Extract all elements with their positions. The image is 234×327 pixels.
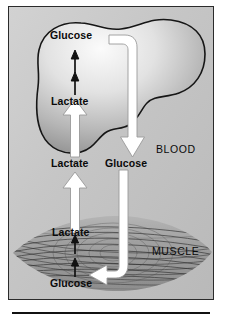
label-muscle-glucose: Glucose	[50, 277, 92, 289]
arrow-glucose-liver-to-blood	[109, 35, 145, 157]
arrow-lactate-muscle-to-blood	[63, 172, 87, 233]
label-blood-glucose: Glucose	[105, 157, 147, 169]
label-muscle-lactate: Lactate	[52, 226, 89, 238]
arrow-lactate-to-liver	[63, 99, 87, 157]
label-liver-glucose: Glucose	[50, 29, 92, 41]
label-blood-lactate: Lactate	[51, 157, 88, 169]
muscle-thin-arrows	[71, 235, 78, 277]
liver-thin-arrows	[71, 50, 79, 95]
label-muscle-region: MUSCLE	[152, 245, 199, 257]
label-blood-region: BLOOD	[156, 143, 196, 155]
arrow-glucose-blood-to-muscle	[89, 170, 128, 285]
figure-canvas: Glucose Lactate Lactate Glucose Lactate …	[0, 0, 234, 327]
label-liver-lactate: Lactate	[51, 95, 88, 107]
diagram-panel: Glucose Lactate Lactate Glucose Lactate …	[8, 6, 214, 300]
figure-rule	[12, 312, 210, 314]
